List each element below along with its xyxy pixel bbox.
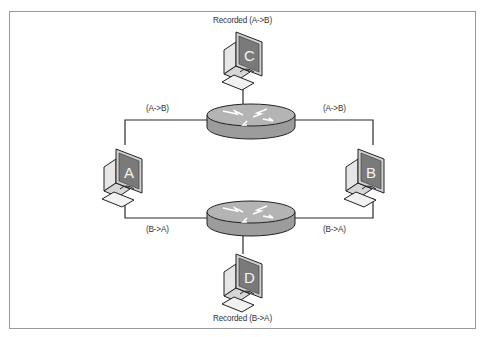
node-a-label: A xyxy=(124,164,134,181)
caption-recorded-a-b: Recorded (A->B) xyxy=(213,14,272,25)
computer-b-icon: B xyxy=(344,149,384,207)
computer-a-icon: A xyxy=(102,149,142,207)
link-r2-a xyxy=(125,198,207,218)
link-r1-b xyxy=(295,120,373,145)
link-label-top-left: (A->B) xyxy=(146,102,169,113)
link-a-r1 xyxy=(125,120,207,145)
router-top-icon xyxy=(207,104,295,139)
node-d-label: D xyxy=(244,269,255,286)
computer-c-icon: C xyxy=(222,32,262,90)
caption-recorded-b-a: Recorded (B->A) xyxy=(213,312,272,323)
computer-d-icon: D xyxy=(222,254,262,312)
network-diagram: C A B D xyxy=(0,0,487,337)
router-bottom-icon xyxy=(207,201,295,236)
node-c-label: C xyxy=(244,47,255,64)
link-label-bottom-right: (B->A) xyxy=(323,223,346,234)
link-label-top-right: (A->B) xyxy=(323,102,346,113)
node-b-label: B xyxy=(366,164,376,181)
link-label-bottom-left: (B->A) xyxy=(146,223,169,234)
